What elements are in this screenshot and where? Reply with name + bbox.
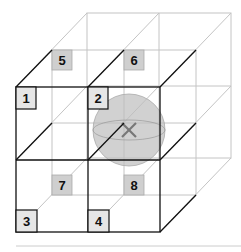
label-2-text: 2 (94, 91, 101, 106)
label-6-text: 6 (130, 53, 137, 68)
label-3-text: 3 (23, 214, 30, 229)
label-5-text: 5 (58, 53, 65, 68)
front-depth-edge (160, 123, 196, 160)
label-4: 4 (88, 210, 109, 232)
front-depth-edge (16, 50, 52, 87)
front-depth-edge (160, 50, 196, 87)
front-depth-edge (160, 195, 196, 232)
label-1-text: 1 (22, 91, 29, 106)
label-4-text: 4 (95, 214, 103, 229)
label-7: 7 (52, 175, 72, 195)
label-7-text: 7 (58, 178, 65, 193)
front-depth-edge (88, 50, 124, 87)
label-5: 5 (52, 50, 72, 70)
front-depth-edge (16, 123, 52, 160)
label-8-text: 8 (130, 178, 137, 193)
label-1: 1 (16, 87, 36, 109)
label-3: 3 (16, 210, 37, 232)
octree-diagram: 5 6 7 8 1 2 (0, 0, 241, 252)
label-8: 8 (124, 175, 144, 195)
label-2: 2 (88, 87, 108, 109)
label-6: 6 (124, 50, 144, 70)
front-grid (16, 50, 196, 232)
